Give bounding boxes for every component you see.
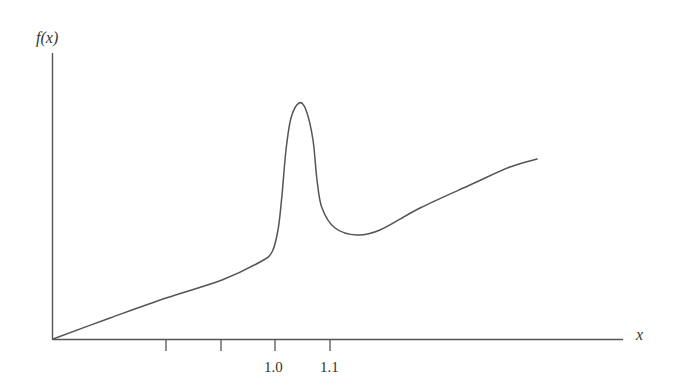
x-axis-label: x [636, 326, 643, 344]
y-axis-label: f(x) [36, 29, 58, 47]
function-curve [53, 103, 537, 339]
chart-canvas [0, 0, 680, 390]
x-tick-label-1.1: 1.1 [320, 359, 339, 376]
x-axis-ticks [166, 340, 330, 352]
x-tick-label-1.0: 1.0 [264, 359, 283, 376]
